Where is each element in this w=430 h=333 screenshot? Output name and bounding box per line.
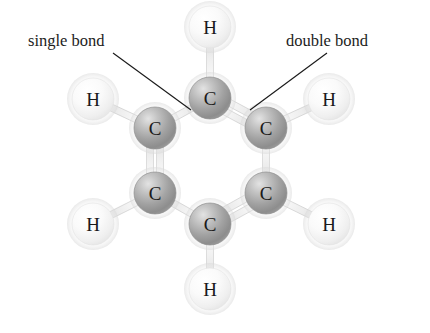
atom-symbol-c: C — [204, 88, 217, 109]
atom-h2: H — [303, 73, 355, 125]
atom-symbol-h: H — [203, 17, 217, 38]
atom-symbol-c: C — [149, 183, 162, 204]
atom-symbol-c: C — [260, 118, 273, 139]
atom-h4: H — [184, 263, 236, 315]
figure-canvas: CCCCCCHHHHHH single bonddouble bond — [0, 0, 430, 333]
annotation-label-double-bond: double bond — [286, 31, 369, 50]
atom-h6: H — [67, 73, 119, 125]
atom-c1: C — [184, 72, 236, 124]
atom-symbol-c: C — [260, 183, 273, 204]
atom-c2: C — [240, 102, 292, 154]
atom-h1: H — [184, 1, 236, 53]
atom-c3: C — [240, 167, 292, 219]
leader-line-single-bond — [113, 53, 191, 110]
annotation-label-single-bond: single bond — [28, 31, 105, 50]
atom-h3: H — [303, 198, 355, 250]
atom-symbol-h: H — [86, 214, 100, 235]
atom-c4: C — [184, 198, 236, 250]
molecule-diagram: CCCCCCHHHHHH single bonddouble bond — [0, 0, 430, 333]
atom-c6: C — [129, 102, 181, 154]
atom-h5: H — [67, 198, 119, 250]
atom-symbol-h: H — [322, 214, 336, 235]
atom-symbol-c: C — [149, 118, 162, 139]
atom-symbol-h: H — [203, 279, 217, 300]
atom-symbol-c: C — [204, 214, 217, 235]
atom-symbol-h: H — [86, 89, 100, 110]
atom-symbol-h: H — [322, 89, 336, 110]
atom-c5: C — [129, 167, 181, 219]
